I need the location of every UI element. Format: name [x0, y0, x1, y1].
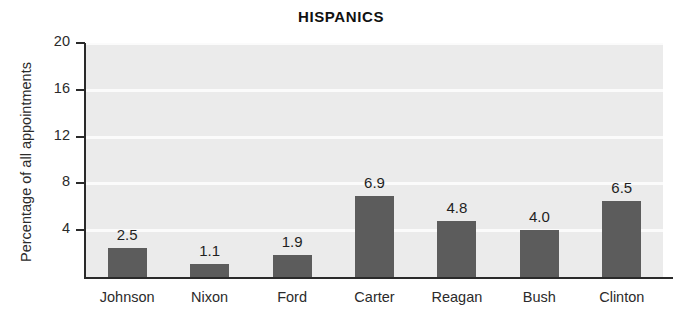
gridline [86, 136, 663, 139]
y-tick-mark [76, 89, 85, 91]
y-tick-label: 8 [36, 173, 70, 189]
bar [355, 196, 394, 277]
x-tick-label: Carter [330, 289, 420, 305]
bar [273, 255, 312, 277]
bar [108, 248, 147, 277]
y-tick-label: 4 [36, 220, 70, 236]
y-axis-line [84, 43, 86, 279]
bar-value-label: 6.9 [345, 174, 405, 191]
x-tick-label: Nixon [165, 289, 255, 305]
x-tick-label: Reagan [412, 289, 502, 305]
chart-title: HISPANICS [0, 8, 682, 25]
bar [520, 230, 559, 277]
bar-value-label: 1.9 [262, 233, 322, 250]
y-tick-mark [76, 229, 85, 231]
bar-chart-figure: HISPANICS Percentage of all appointments… [0, 0, 682, 332]
y-tick-mark [76, 136, 85, 138]
x-tick-label: Clinton [577, 289, 667, 305]
bar-value-label: 4.0 [509, 208, 569, 225]
bar-value-label: 4.8 [427, 199, 487, 216]
y-axis-title: Percentage of all appointments [18, 32, 34, 292]
gridline [86, 89, 663, 92]
bar-value-label: 2.5 [97, 226, 157, 243]
y-tick-label: 20 [36, 33, 70, 49]
x-tick-label: Ford [247, 289, 337, 305]
y-tick-mark [76, 182, 85, 184]
bar [190, 264, 229, 277]
gridline [86, 43, 663, 45]
bar [602, 201, 641, 277]
x-tick-label: Bush [494, 289, 584, 305]
bar-value-label: 6.5 [592, 179, 652, 196]
y-tick-mark [76, 42, 85, 44]
x-tick-label: Johnson [82, 289, 172, 305]
y-tick-label: 12 [36, 127, 70, 143]
x-axis-line [84, 277, 673, 279]
bar-value-label: 1.1 [180, 242, 240, 259]
plot-area [86, 43, 663, 277]
bar [437, 221, 476, 277]
y-tick-label: 16 [36, 80, 70, 96]
